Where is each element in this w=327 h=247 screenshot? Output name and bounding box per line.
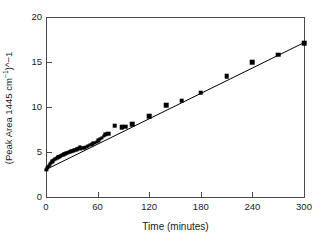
chart-figure: (Peak Area 1445 cm−1)^−1 Time (minutes) … [0, 0, 327, 247]
y-axis-label-suffix: −1 [3, 51, 14, 62]
y-tick-label: 0 [37, 192, 42, 202]
y-tick-mark [47, 62, 52, 63]
y-axis-label-holder: (Peak Area 1445 cm−1)^−1 [0, 17, 18, 198]
x-tick-mark [304, 192, 305, 197]
fit-line-segment [46, 43, 304, 170]
x-tick-label: 60 [92, 202, 103, 212]
x-tick-mark [46, 192, 47, 197]
data-point [164, 103, 169, 108]
fit-line [46, 17, 305, 198]
y-tick-mark [47, 197, 52, 198]
x-tick-label: 240 [244, 202, 260, 212]
data-point [123, 125, 128, 130]
x-tick-label: 300 [296, 202, 312, 212]
x-tick-label: 180 [193, 202, 209, 212]
y-axis-label-mid: )^ [3, 62, 14, 70]
axis-spine-top [46, 17, 305, 18]
data-point [147, 114, 152, 119]
plot-area: 05101520 060120180240300 [46, 17, 305, 198]
data-point [250, 60, 255, 65]
data-point [180, 98, 185, 103]
axis-spine-bottom [46, 197, 305, 198]
y-axis-label-prefix: (Peak Area 1445 cm [3, 78, 14, 164]
x-tick-mark [98, 192, 99, 197]
data-point [113, 124, 118, 129]
y-tick-mark [47, 17, 52, 18]
data-point [276, 53, 281, 58]
x-tick-mark [252, 192, 253, 197]
y-tick-mark [47, 152, 52, 153]
data-point [130, 122, 135, 127]
data-point [302, 41, 307, 46]
y-tick-label: 10 [31, 102, 42, 112]
x-tick-label: 0 [43, 202, 48, 212]
y-tick-label: 5 [37, 147, 42, 157]
data-point [106, 131, 111, 136]
x-tick-mark [149, 192, 150, 197]
y-tick-label: 15 [31, 57, 42, 67]
y-axis-label-superscript-1: −1 [2, 70, 9, 78]
x-tick-mark [201, 192, 202, 197]
x-axis-label: Time (minutes) [46, 222, 305, 232]
x-tick-label: 120 [141, 202, 157, 212]
y-tick-label: 20 [31, 12, 42, 22]
y-tick-mark [47, 107, 52, 108]
y-axis-label: (Peak Area 1445 cm−1)^−1 [4, 51, 14, 164]
data-point [199, 90, 204, 95]
data-point [224, 74, 229, 79]
